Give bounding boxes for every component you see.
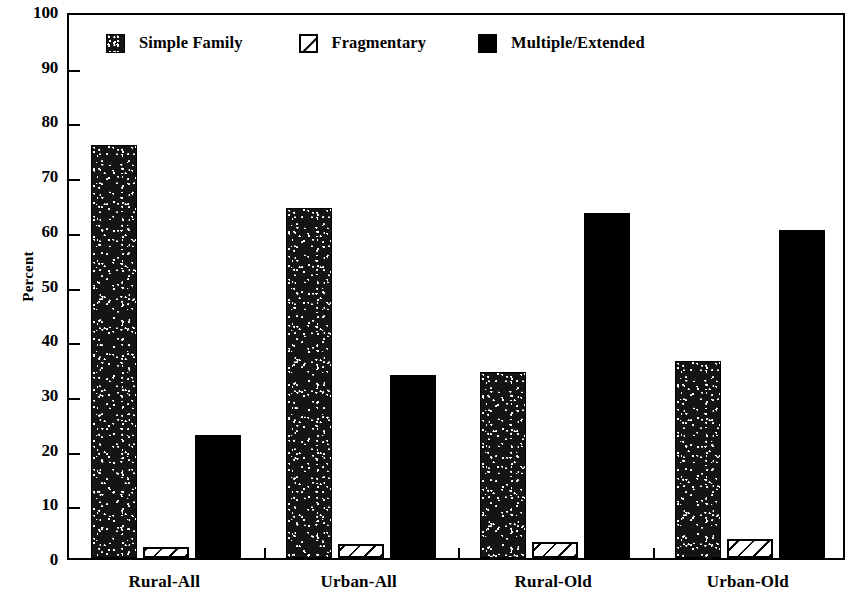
bar-rural-old-simple-family xyxy=(480,372,526,558)
y-axis-tick-mark xyxy=(69,234,80,236)
y-axis-tick-label: 70 xyxy=(0,167,58,187)
y-axis-tick-mark xyxy=(69,124,80,126)
solid-black-swatch-icon xyxy=(478,34,497,53)
legend-entry-multiple-extended: Multiple/Extended xyxy=(478,33,645,53)
legend-label-fragmentary: Fragmentary xyxy=(332,33,427,53)
x-axis-tick-mark xyxy=(264,548,266,558)
bar-urban-all-simple-family xyxy=(286,208,332,558)
y-axis-tick-labels: 0102030405060708090100 xyxy=(0,0,58,605)
legend-label-multiple-extended: Multiple/Extended xyxy=(511,33,645,53)
bar-urban-old-multiple-extended xyxy=(779,230,825,558)
chart-legend: Simple Family Fragmentary Multiple/Exten… xyxy=(106,33,645,53)
legend-label-simple-family: Simple Family xyxy=(139,33,243,53)
bar-rural-old-fragmentary xyxy=(532,542,578,558)
y-axis-tick-mark xyxy=(69,70,80,72)
x-axis-category-label: Urban-All xyxy=(321,572,397,592)
stipple-swatch-icon xyxy=(106,34,125,53)
y-axis-tick-label: 80 xyxy=(0,112,58,132)
bar-chart: Percent 0102030405060708090100 Rural-All… xyxy=(0,0,853,605)
y-axis-tick-label: 50 xyxy=(0,277,58,297)
bar-rural-all-fragmentary xyxy=(143,547,189,558)
plot-inner xyxy=(69,15,843,558)
bar-urban-all-multiple-extended xyxy=(390,375,436,558)
bar-rural-all-multiple-extended xyxy=(195,435,241,558)
y-axis-tick-label: 30 xyxy=(0,386,58,406)
hatched-swatch-icon xyxy=(299,34,318,53)
bar-urban-old-fragmentary xyxy=(727,539,773,558)
y-axis-tick-label: 90 xyxy=(0,58,58,78)
y-axis-tick-mark xyxy=(69,179,80,181)
bar-urban-old-simple-family xyxy=(675,361,721,558)
x-axis-tick-mark xyxy=(458,548,460,558)
x-axis-tick-mark xyxy=(653,548,655,558)
y-axis-tick-label: 20 xyxy=(0,441,58,461)
y-axis-tick-mark xyxy=(69,289,80,291)
bar-urban-all-fragmentary xyxy=(338,544,384,558)
plot-area xyxy=(67,13,845,560)
legend-entry-fragmentary: Fragmentary xyxy=(299,33,427,53)
y-axis-tick-label: 100 xyxy=(0,3,58,23)
bar-rural-all-simple-family xyxy=(91,145,137,558)
x-axis-category-label: Urban-Old xyxy=(707,572,789,592)
y-axis-tick-mark xyxy=(69,398,80,400)
x-axis-category-label: Rural-Old xyxy=(515,572,592,592)
y-axis-tick-mark xyxy=(69,507,80,509)
y-axis-tick-label: 0 xyxy=(0,550,58,570)
legend-entry-simple-family: Simple Family xyxy=(106,33,243,53)
y-axis-tick-label: 60 xyxy=(0,222,58,242)
y-axis-tick-mark xyxy=(69,343,80,345)
y-axis-tick-mark xyxy=(69,453,80,455)
bar-rural-old-multiple-extended xyxy=(584,213,630,558)
y-axis-tick-label: 40 xyxy=(0,331,58,351)
y-axis-tick-label: 10 xyxy=(0,495,58,515)
x-axis-category-label: Rural-All xyxy=(128,572,200,592)
